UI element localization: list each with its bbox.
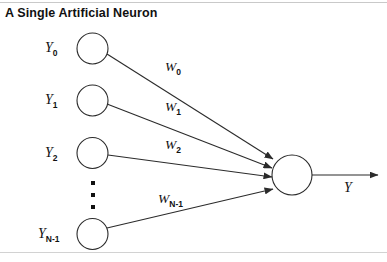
output-label-y: Y <box>344 180 352 196</box>
input-label-y0: Y0 <box>45 40 58 58</box>
input-node-2 <box>77 138 108 169</box>
connection-line-3 <box>107 189 273 228</box>
connection-line-0 <box>107 54 273 159</box>
ellipsis-dot <box>91 193 95 197</box>
input-node-1 <box>77 85 108 116</box>
weight-label-w1: W1 <box>165 99 181 117</box>
input-label-y2: Y2 <box>45 145 58 163</box>
input-label-yn1: YN-1 <box>38 226 60 244</box>
input-node-0 <box>77 33 108 64</box>
diagram-page: A Single Artificial Neuron Y0 <box>0 0 387 262</box>
output-neuron-node <box>272 155 312 195</box>
weight-label-wn1: WN-1 <box>158 191 183 209</box>
input-label-y1: Y1 <box>45 92 58 110</box>
input-nodes <box>77 33 108 250</box>
bottom-divider <box>0 252 387 253</box>
weight-label-w0: W0 <box>165 59 181 77</box>
ellipsis-dot <box>91 205 95 209</box>
input-node-3 <box>77 219 108 250</box>
ellipsis-dot <box>91 181 95 185</box>
weight-label-w2: W2 <box>165 137 181 155</box>
connection-lines <box>107 54 273 228</box>
neuron-diagram <box>0 0 387 262</box>
